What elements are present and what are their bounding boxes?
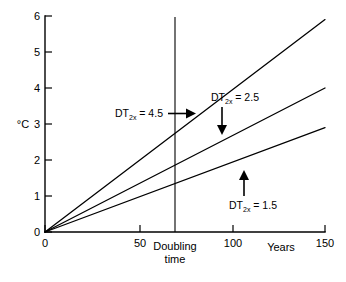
- data-series-group: [45, 20, 325, 232]
- data-line-dt15: [45, 128, 325, 232]
- y-tick-label-4: 4: [34, 82, 40, 94]
- data-line-dt45: [45, 20, 325, 232]
- annotation-dt45-prefix: DT: [115, 107, 130, 119]
- x-tick-label-150: 150: [316, 237, 334, 249]
- x-tick-label-0: 0: [42, 237, 48, 249]
- y-tick-label-2: 2: [34, 154, 40, 166]
- x-axis-ticks: [45, 225, 325, 232]
- svg-text:DT2x = 4.5: DT2x = 4.5: [115, 107, 163, 121]
- y-axis-ticks: [45, 16, 52, 232]
- x-axis-title: Years: [267, 241, 295, 253]
- x-tick-label-50: 50: [134, 237, 146, 249]
- annotation-dt15: DT2x = 1.5: [229, 170, 277, 213]
- y-axis-title: °C: [17, 118, 29, 130]
- y-axis-tick-labels: 0 1 2 3 4 5 6: [34, 10, 40, 238]
- annotation-dt25: DT2x = 2.5: [211, 91, 259, 135]
- annotation-dt15-suffix: = 1.5: [250, 199, 277, 211]
- y-tick-label-1: 1: [34, 190, 40, 202]
- chart-container: 0 1 2 3 4 5 6 °C 0 50 100 150 Years Doub: [0, 0, 346, 282]
- y-tick-label-5: 5: [34, 46, 40, 58]
- doubling-time-label-line1: Doubling: [153, 240, 196, 252]
- svg-text:DT2x = 2.5: DT2x = 2.5: [211, 91, 259, 105]
- y-tick-label-0: 0: [34, 226, 40, 238]
- data-line-dt25: [45, 88, 325, 232]
- y-tick-label-6: 6: [34, 10, 40, 22]
- annotation-dt25-suffix: = 2.5: [232, 91, 259, 103]
- chart-canvas: 0 1 2 3 4 5 6 °C 0 50 100 150 Years Doub: [0, 0, 346, 282]
- annotation-dt25-arrow-down-icon: [217, 107, 227, 135]
- annotation-dt45-arrow-right-icon: [168, 109, 196, 119]
- doubling-time-label-line2: time: [165, 253, 186, 265]
- annotation-dt15-arrow-up-icon: [239, 170, 249, 196]
- svg-text:DT2x = 1.5: DT2x = 1.5: [229, 199, 277, 213]
- y-tick-label-3: 3: [34, 118, 40, 130]
- x-tick-label-100: 100: [224, 237, 242, 249]
- annotation-dt45: DT2x = 4.5: [115, 107, 196, 121]
- annotation-dt45-suffix: = 4.5: [136, 107, 163, 119]
- annotation-dt15-prefix: DT: [229, 199, 244, 211]
- annotation-dt25-prefix: DT: [211, 91, 226, 103]
